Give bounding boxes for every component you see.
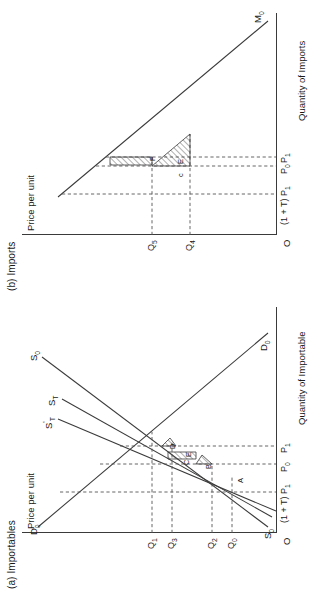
import-curve-m0 — [58, 21, 268, 197]
panel-a-price-tick-2: P0 — [279, 462, 291, 472]
panel-b-price-tick-1: (1 + T) P1 — [279, 186, 291, 225]
panel-a-qty-tick-q1: Q1 — [146, 538, 158, 549]
area-label-e: E — [184, 452, 193, 457]
panel-b-qty-tick-q5: Q5 — [146, 240, 158, 251]
panel-b-price-tick-2: P0 — [279, 164, 291, 174]
panel-b-area-e-hatch — [110, 157, 152, 165]
panel-importables: (a) Importables Price per unit Quantity … — [0, 297, 321, 595]
panel-b-area-label-e: E — [176, 159, 185, 164]
panel-b-qty-tick-q4: Q4 — [184, 240, 196, 251]
area-label-a: A — [236, 478, 245, 483]
supply-curve-st-prime — [58, 419, 276, 511]
panel-a-qty-tick-q2: Q2 — [206, 538, 218, 549]
supply-curve-st — [62, 399, 272, 517]
area-label-b: B — [204, 464, 213, 469]
panel-b-area-label-c: c — [176, 173, 185, 177]
curve-label-st-prime: S'T — [42, 417, 56, 429]
area-label-c: C — [182, 460, 191, 465]
curve-label-d0-upper: D0 — [28, 524, 41, 535]
curve-label-s0-upper: S0 — [28, 351, 41, 361]
panel-b-area-label-f: F — [148, 156, 157, 161]
demand-curve-d0 — [38, 333, 268, 527]
figure-canvas: (a) Importables Price per unit Quantity … — [0, 0, 321, 595]
curve-label-d0-lower: D0 — [258, 340, 271, 351]
curve-label-m0: M0 — [252, 11, 265, 23]
panel-a-qty-tick-q0: Q0 — [226, 538, 238, 549]
panel-imports: (b) Imports Price per unit Quantity of I… — [0, 0, 321, 297]
panel-a-price-tick-1: (1 + T) P1 — [279, 484, 291, 523]
curve-label-st: ST — [46, 396, 59, 407]
deadweight-triangle-b — [196, 455, 212, 464]
panel-a-qty-tick-q3: Q3 — [166, 538, 178, 549]
panel-a-plot — [0, 297, 321, 595]
panel-b-plot — [0, 0, 321, 297]
area-label-d: D — [168, 444, 177, 449]
panel-a-price-tick-3: P1 — [279, 443, 291, 453]
supply-curve-s0 — [42, 357, 268, 527]
curve-label-s0-lower: S0 — [262, 529, 275, 539]
panel-b-price-tick-3: P1 — [279, 153, 291, 163]
